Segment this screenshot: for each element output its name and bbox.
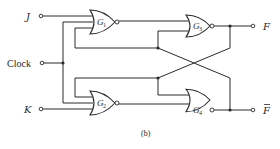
wires [43,16,251,110]
junction-clock [61,61,64,64]
junction-f-left [156,76,159,79]
nor-bubble-g1 [115,20,119,24]
terminal-k [39,107,43,111]
gate-sub-g2: 2 [103,103,106,109]
nor-bubble-g3 [210,24,214,28]
input-label-clock: Clock [7,58,31,69]
wire-f-g2 [75,78,158,97]
wire-clock-bus [63,22,93,103]
output-label-f: F [262,21,271,32]
terminal-j [39,14,43,18]
wire-fbar-g1 [75,28,158,48]
gate-sub-g4: 4 [199,110,202,116]
junction-f-right [228,24,231,27]
junction-fbar-left [156,46,159,49]
output-label-fbar-group: F [262,105,271,117]
jk-flip-flop-diagram: J Clock K [0,0,280,149]
wire-f-g4 [158,78,189,95]
terminal-clock [40,61,44,65]
wire-fbar-g3 [158,31,189,48]
nor-bubble-g2 [115,101,119,105]
gate-g2: G 2 [90,91,119,115]
terminal-f [251,24,255,28]
junction-fbar-right [228,108,231,111]
figure-caption: (b) [141,129,151,138]
input-label-j: J [24,11,31,22]
terminal-fbar [251,108,255,112]
output-label-fbar: F [262,105,271,116]
gate-g4: G 4 [186,89,214,116]
gate-g3: G 3 [186,15,214,37]
input-label-k: K [23,104,32,115]
gate-g1: G 1 [90,10,119,34]
gate-sub-g3: 3 [199,26,202,32]
nor-bubble-g4 [210,108,214,112]
gate-sub-g1: 1 [103,22,106,28]
